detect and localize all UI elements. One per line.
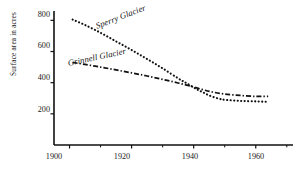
glacier-surface-area-chart: Surface area in acres 800 600 400 200 19… <box>0 0 301 175</box>
axis-lines <box>54 11 293 145</box>
series-line-sperry-glacier <box>73 20 269 102</box>
plot-area <box>0 0 301 175</box>
series-line-grinnell-glacier <box>73 62 269 96</box>
